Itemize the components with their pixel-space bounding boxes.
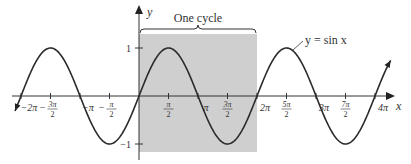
curve-label: y = sin x	[305, 33, 347, 47]
x-tick-label-numerator: 7π	[341, 100, 350, 109]
chart-canvas: One cycle −2π−3π2−π−π2π2π3π22π5π23π7π24π…	[0, 0, 411, 164]
x-tick-label-denominator: 2	[167, 110, 171, 119]
x-axis-arrow-icon	[386, 92, 395, 100]
sine-chart: One cycle −2π−3π2−π−π2π2π3π22π5π23π7π24π…	[0, 0, 411, 164]
y-tick-label: 1	[126, 43, 131, 54]
y-axis-label: y	[146, 5, 153, 19]
y-axis-arrow-icon	[135, 5, 143, 14]
x-tick-label-sign: −	[99, 102, 105, 113]
curve-label-leader	[293, 41, 303, 50]
x-tick-label: 2π	[260, 102, 271, 113]
x-tick-label-denominator: 2	[344, 110, 348, 119]
y-tick-label: −1	[120, 139, 131, 150]
x-tick-label: −2π	[21, 102, 39, 113]
x-tick-label-numerator: 3π	[47, 100, 57, 109]
x-axis-label: x	[395, 99, 402, 113]
x-tick-label-denominator: 2	[50, 110, 54, 119]
x-tick-label-numerator: 5π	[282, 100, 291, 109]
x-tick-label-sign: −	[40, 102, 46, 113]
x-tick-label-denominator: 2	[285, 110, 289, 119]
one-cycle-brace	[140, 25, 256, 33]
x-tick-label-denominator: 2	[109, 110, 113, 119]
x-tick-label-numerator: 3π	[222, 100, 232, 109]
one-cycle-label: One cycle	[174, 11, 222, 25]
x-tick-label-numerator: π	[109, 100, 114, 109]
x-tick-label-denominator: 2	[226, 110, 230, 119]
x-tick-label: 4π	[378, 102, 389, 113]
